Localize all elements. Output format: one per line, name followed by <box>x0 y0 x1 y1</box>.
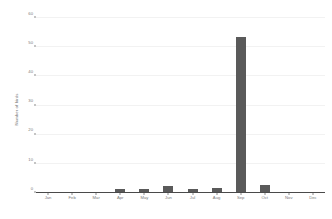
x-axis-tick-label: Jan <box>36 196 60 200</box>
x-axis-tick-label: Nov <box>277 196 301 200</box>
x-axis-tick-label: Jul <box>180 196 204 200</box>
bar-slot <box>36 18 60 192</box>
y-axis-tick-label: 10 <box>28 158 33 162</box>
bar-slot <box>84 18 108 192</box>
bar-chart: Number of birds 0102030405060 JanFebMarA… <box>0 0 332 219</box>
y-axis-tick-label: 50 <box>28 41 33 45</box>
y-axis-tick-label: 40 <box>28 70 33 74</box>
bar-slot <box>229 18 253 192</box>
bar <box>236 37 246 192</box>
y-axis-title: Number of birds <box>10 0 22 219</box>
x-axis-tick-label: Dec <box>301 196 325 200</box>
x-axis-tick-label: Aug <box>205 196 229 200</box>
bar-slot <box>60 18 84 192</box>
bar <box>260 185 270 192</box>
x-axis-tick-label: Feb <box>60 196 84 200</box>
x-axis-tick-label: May <box>132 196 156 200</box>
x-axis-tick-label: Jun <box>156 196 180 200</box>
bar-slot <box>108 18 132 192</box>
x-axis-labels: JanFebMarAprMayJunJulAugSepOctNovDec <box>36 196 325 200</box>
x-axis-tick-label: Apr <box>108 196 132 200</box>
y-axis-tick-label: 30 <box>28 99 33 103</box>
x-axis-tick-label: Oct <box>253 196 277 200</box>
bar-series <box>36 18 325 192</box>
bar-slot <box>156 18 180 192</box>
bar-slot <box>301 18 325 192</box>
y-axis-title-text: Number of birds <box>14 93 19 125</box>
x-axis-tick-label: Sep <box>229 196 253 200</box>
bar-slot <box>205 18 229 192</box>
y-axis-tick-label: 0 <box>31 187 33 191</box>
bar-slot <box>180 18 204 192</box>
x-axis-tick-label: Mar <box>84 196 108 200</box>
y-axis-tick-label: 60 <box>28 12 33 16</box>
y-axis-tick-label: 20 <box>28 128 33 132</box>
bar-slot <box>132 18 156 192</box>
bar-slot <box>253 18 277 192</box>
plot-area: 0102030405060 <box>36 18 325 193</box>
bar-slot <box>277 18 301 192</box>
